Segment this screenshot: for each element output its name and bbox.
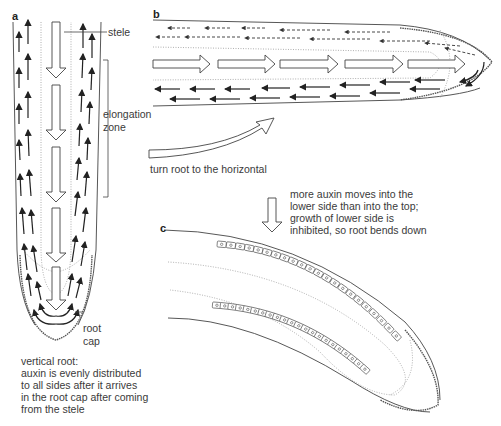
root-outline-left xyxy=(13,22,35,325)
root-outline-right xyxy=(78,22,101,325)
panel-a-caption: vertical root: auxin is evenly distribut… xyxy=(21,355,148,415)
root-c-cap-boundary xyxy=(390,340,413,395)
cell-file-lower xyxy=(212,302,370,375)
caption-c-line: more auxin moves into the xyxy=(290,188,427,200)
panel-c-caption: more auxin moves into the lower side tha… xyxy=(290,188,427,236)
caption-a-line: vertical root: xyxy=(21,355,148,367)
root-c-cap-outline xyxy=(380,330,438,410)
auxin-up-arrows-right xyxy=(68,24,92,298)
caption-a-line: in the root cap after coming xyxy=(21,391,148,403)
caption-a-line: from the stele xyxy=(21,403,148,415)
caption-a-line: to all sides after it arrives xyxy=(21,379,148,391)
root-c-outline-top xyxy=(164,230,440,400)
turn-root-label: turn root to the horizontal xyxy=(150,163,267,175)
panel-a-letter: a xyxy=(12,10,18,22)
panel-b-horizontal-root xyxy=(149,20,492,158)
panel-b-letter: b xyxy=(153,8,160,20)
caption-a-line: auxin is evenly distributed xyxy=(21,367,148,379)
cell-file-upper xyxy=(217,241,402,341)
auxin-dashed-arrows-top xyxy=(156,28,475,55)
caption-c-line: lower side than into the top; xyxy=(290,200,427,212)
gravity-arrow-icon xyxy=(262,198,282,232)
caption-c-line: inhibited, so root bends down xyxy=(290,224,427,236)
elongation-zone-label-line1: elongation xyxy=(103,108,151,120)
turn-root-arrow-icon xyxy=(149,118,274,158)
stele-hollow-arrows xyxy=(46,22,66,310)
root-cap-label-line1: root xyxy=(83,322,101,334)
panel-c-letter: c xyxy=(160,222,166,234)
root-b-outline-top xyxy=(153,20,490,60)
panel-a-vertical-root xyxy=(13,20,108,340)
stele-label: stele xyxy=(108,26,130,38)
caption-c-line: growth of lower side is xyxy=(290,212,427,224)
root-cap-label-line2: cap xyxy=(83,335,100,347)
stele-hollow-arrows-b xyxy=(153,55,465,73)
elongation-zone-label-line2: zone xyxy=(103,121,126,133)
root-c-stele-boundary xyxy=(168,262,405,395)
